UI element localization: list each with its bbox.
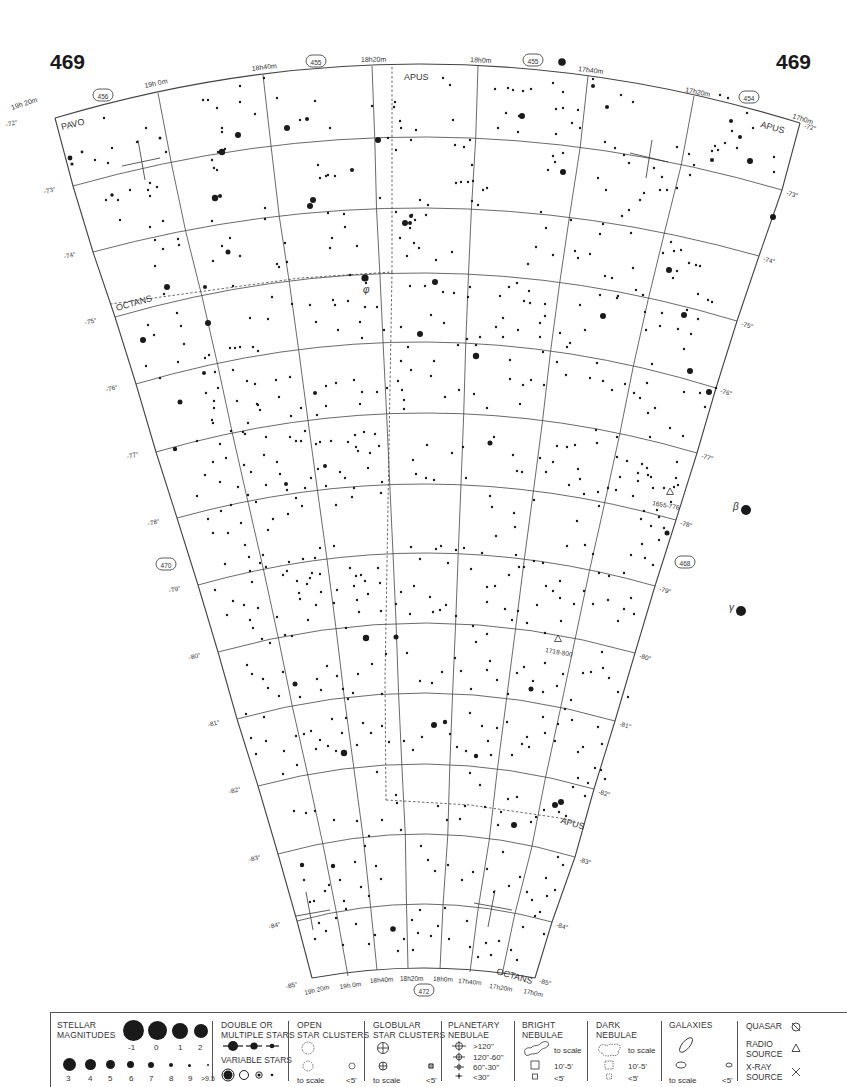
star bbox=[345, 627, 347, 629]
star bbox=[309, 577, 311, 579]
star bbox=[598, 572, 600, 574]
star bbox=[341, 732, 343, 734]
star bbox=[552, 802, 558, 808]
star bbox=[226, 250, 231, 255]
star bbox=[289, 376, 291, 378]
star bbox=[107, 162, 109, 164]
star bbox=[542, 691, 544, 693]
star bbox=[556, 445, 558, 447]
star bbox=[149, 226, 151, 228]
star bbox=[502, 317, 504, 319]
star bbox=[562, 91, 564, 93]
star bbox=[293, 682, 298, 687]
star bbox=[359, 321, 361, 323]
dec-label: -81° bbox=[207, 718, 221, 728]
star bbox=[395, 211, 397, 213]
radio-source-icon bbox=[555, 635, 562, 642]
star bbox=[310, 197, 316, 203]
star bbox=[486, 669, 488, 671]
legend-dark-title-2: NEBULAE bbox=[596, 1030, 637, 1040]
star bbox=[577, 468, 579, 470]
planetary-size-2: 120"-60" bbox=[473, 1053, 504, 1063]
star bbox=[616, 436, 618, 438]
adjacent-chart-number: 468 bbox=[680, 560, 691, 567]
legend-divider bbox=[587, 1021, 588, 1081]
legend-open-title-1: OPEN bbox=[297, 1020, 322, 1030]
star bbox=[380, 492, 382, 494]
star bbox=[454, 657, 456, 659]
star bbox=[650, 476, 652, 478]
mag-label: 4 bbox=[88, 1074, 92, 1084]
star bbox=[303, 733, 305, 735]
star bbox=[263, 77, 265, 79]
meridian-line bbox=[158, 93, 348, 976]
dec-label: -73° bbox=[43, 185, 57, 195]
star bbox=[418, 247, 420, 249]
star bbox=[406, 255, 408, 257]
adjacent-chart-number: 472 bbox=[419, 988, 430, 995]
star bbox=[460, 181, 462, 183]
magnitude-faint-dot bbox=[207, 1064, 209, 1066]
star bbox=[554, 161, 556, 163]
star bbox=[544, 662, 546, 664]
star bbox=[485, 942, 487, 944]
star bbox=[178, 244, 180, 246]
star bbox=[262, 678, 264, 680]
star bbox=[263, 716, 265, 718]
star bbox=[647, 474, 649, 476]
star bbox=[543, 809, 545, 811]
star bbox=[661, 176, 663, 178]
star bbox=[420, 845, 422, 847]
star bbox=[379, 582, 381, 584]
star bbox=[444, 907, 446, 909]
star bbox=[403, 399, 405, 401]
star bbox=[574, 444, 576, 446]
star bbox=[352, 692, 354, 694]
star bbox=[683, 391, 685, 393]
star bbox=[276, 461, 278, 463]
star bbox=[364, 306, 366, 308]
star bbox=[226, 614, 228, 616]
star bbox=[599, 233, 601, 235]
star bbox=[246, 664, 248, 666]
star bbox=[460, 670, 462, 672]
star bbox=[232, 600, 234, 602]
star bbox=[695, 264, 697, 266]
mag-label: 6 bbox=[129, 1074, 133, 1084]
planetary-size-3: 60"-30" bbox=[473, 1063, 499, 1073]
star bbox=[597, 177, 599, 179]
star bbox=[697, 293, 699, 295]
star bbox=[592, 78, 594, 80]
star bbox=[408, 221, 412, 225]
star bbox=[514, 526, 516, 528]
star bbox=[225, 457, 227, 459]
star bbox=[355, 923, 357, 925]
star bbox=[649, 436, 651, 438]
star bbox=[205, 392, 207, 394]
star bbox=[315, 321, 317, 323]
star bbox=[356, 599, 358, 601]
star bbox=[714, 145, 716, 147]
star bbox=[220, 510, 222, 512]
dark-nebula-symbols bbox=[596, 1039, 626, 1085]
star bbox=[224, 563, 226, 565]
star bbox=[183, 343, 185, 345]
star bbox=[632, 495, 634, 497]
star bbox=[654, 407, 656, 409]
greek-star-label: γ bbox=[729, 602, 735, 613]
star bbox=[456, 746, 458, 748]
star bbox=[526, 736, 528, 738]
star bbox=[630, 554, 632, 556]
star bbox=[582, 746, 584, 748]
star bbox=[331, 864, 335, 868]
ra-label: 18h20m bbox=[361, 56, 387, 63]
star bbox=[604, 778, 606, 780]
star bbox=[493, 436, 495, 438]
star bbox=[177, 361, 179, 363]
star bbox=[608, 575, 610, 577]
star bbox=[315, 443, 317, 445]
star bbox=[399, 120, 401, 122]
radio-source-label: 1718-800 bbox=[545, 646, 574, 658]
star bbox=[282, 574, 284, 576]
star bbox=[680, 249, 682, 251]
